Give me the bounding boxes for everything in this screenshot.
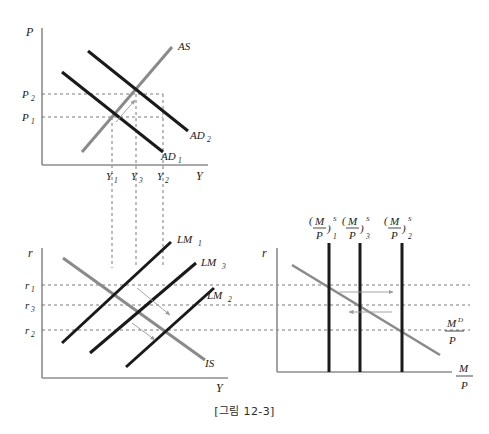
r1-label: r: [25, 279, 30, 291]
r1-subscript: 1: [31, 285, 35, 294]
top-y-tick-p2: P 2: [21, 88, 35, 103]
ad1-curve: [62, 72, 163, 152]
ms2-denominator: P: [390, 229, 398, 241]
ad2-curve: [88, 51, 188, 131]
r3-label: r: [25, 299, 30, 311]
md-numerator: M: [446, 317, 457, 329]
ms3-subscript: 3: [365, 232, 370, 241]
ms1-paren-close: ): [326, 222, 331, 235]
bl-y-axis-label: r: [28, 246, 33, 260]
ms1-denominator: P: [315, 229, 323, 241]
top-y-tick-p1: P 1: [21, 111, 35, 126]
ad2-label-text: AD: [189, 129, 205, 141]
r3-subscript: 3: [30, 305, 35, 314]
br-y-axis-label: r: [262, 246, 267, 260]
lm2-curve-label: LM 2: [206, 289, 232, 304]
ms3-superscript-s: S: [366, 215, 370, 223]
lm1-subscript: 1: [198, 239, 202, 248]
p2-subscript: 2: [31, 94, 35, 103]
top-x-tick-y2: Y 2: [157, 170, 169, 185]
is-curve-label: IS: [204, 357, 215, 369]
ms3-paren-close: ): [359, 222, 364, 235]
y1-subscript: 1: [114, 176, 118, 185]
money-demand-label: M D P: [445, 316, 464, 346]
adjustment-arrow-bl-1: [137, 288, 170, 315]
lm2-label-text: LM: [206, 289, 223, 301]
y2-subscript: 2: [165, 176, 169, 185]
ms1-subscript: 1: [333, 232, 337, 241]
bl-tick-r3: r 3: [25, 299, 35, 314]
money-supply-2-label: ( M P ) S 2: [384, 214, 412, 241]
p1-subscript: 1: [31, 117, 35, 126]
as-curve-label: AS: [177, 40, 191, 52]
bl-x-axis-label: Y: [216, 381, 224, 395]
ms3-paren-open: (: [342, 214, 347, 227]
money-supply-3-label: ( M P ) S 3: [342, 214, 370, 241]
ms3-denominator: P: [348, 229, 356, 241]
ms2-subscript: 2: [408, 232, 412, 241]
lm1-label-text: LM: [176, 233, 193, 245]
figure-container: P Y P 2 P 1 Y 1 Y 3 Y 2: [0, 0, 489, 434]
ad2-curve-label: AD 2: [189, 129, 211, 144]
adjustment-arrow-bl-2: [132, 323, 155, 340]
br-x-numerator: M: [458, 362, 469, 374]
figure-caption: [그림 12-3]: [0, 402, 489, 418]
y3-label: Y: [131, 170, 139, 182]
y3-subscript: 3: [138, 176, 143, 185]
chart-ad-as: P Y P 2 P 1 Y 1 Y 3 Y 2: [21, 25, 211, 268]
economics-figure: P Y P 2 P 1 Y 1 Y 3 Y 2: [0, 0, 489, 434]
ms1-superscript-s: S: [333, 215, 337, 223]
bl-tick-r1: r 1: [25, 279, 35, 294]
md-denominator: P: [448, 334, 456, 346]
p2-label: P: [21, 88, 29, 100]
ad1-label-text: AD: [160, 150, 176, 162]
lm3-label-text: LM: [200, 256, 217, 268]
lm2-subscript: 2: [228, 295, 232, 304]
ms1-paren-open: (: [309, 214, 314, 227]
p1-label: P: [21, 111, 29, 123]
ms3-numerator: M: [347, 215, 358, 227]
money-supply-1-label: ( M P ) S 1: [309, 214, 337, 241]
chart-money-market: r ( M P ) S 1 ( M P ) S 3: [262, 214, 473, 391]
lm3-curve-label: LM 3: [200, 256, 226, 271]
r2-label: r: [25, 324, 30, 336]
br-x-denominator: P: [460, 379, 468, 391]
br-x-axis-label: M P: [456, 362, 473, 391]
top-x-tick-y3: Y 3: [131, 170, 143, 185]
ms2-numerator: M: [389, 215, 400, 227]
connector-dashed-lines: [112, 94, 163, 268]
lm3-curve: [90, 263, 196, 353]
ms2-paren-open: (: [384, 214, 389, 227]
top-x-axis-label: Y: [196, 169, 204, 183]
ms2-superscript-s: S: [408, 215, 412, 223]
money-demand-curve: [292, 265, 440, 355]
bl-tick-r2: r 2: [25, 324, 35, 339]
lm3-subscript: 3: [221, 262, 226, 271]
lm1-curve-label: LM 1: [176, 233, 202, 248]
ms2-paren-close: ): [401, 222, 406, 235]
top-x-tick-y1: Y 1: [106, 170, 118, 185]
r2-subscript: 2: [31, 330, 35, 339]
top-y-axis-label: P: [25, 25, 34, 39]
lm1-curve: [62, 242, 171, 343]
md-superscript-d: D: [457, 316, 463, 324]
ms1-numerator: M: [314, 215, 325, 227]
ad2-subscript: 2: [207, 135, 211, 144]
y2-label: Y: [157, 170, 165, 182]
ad1-subscript: 1: [178, 156, 182, 165]
y1-label: Y: [106, 170, 114, 182]
